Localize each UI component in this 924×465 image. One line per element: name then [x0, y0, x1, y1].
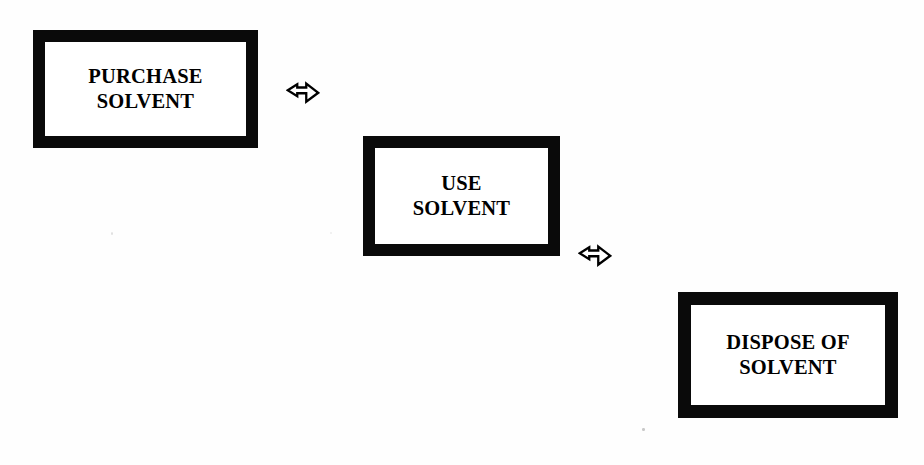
- scan-artifact-speck: [330, 232, 332, 234]
- process-box-purchase-solvent-label: PURCHASE SOLVENT: [84, 64, 206, 114]
- process-box-dispose-solvent-label: DISPOSE OF SOLVENT: [722, 330, 853, 380]
- block-arrow-right-icon: [286, 81, 320, 105]
- block-arrow-right-icon: [578, 244, 612, 268]
- scan-artifact-speck: [111, 232, 113, 235]
- process-box-use-solvent-label: USE SOLVENT: [409, 171, 515, 221]
- process-box-purchase-solvent[interactable]: PURCHASE SOLVENT: [33, 30, 258, 148]
- scan-artifact-speck: [642, 428, 645, 431]
- process-box-use-solvent[interactable]: USE SOLVENT: [363, 136, 560, 256]
- process-box-dispose-solvent[interactable]: DISPOSE OF SOLVENT: [678, 292, 898, 418]
- diagram-canvas: PURCHASE SOLVENT USE SOLVENT DISPOSE OF …: [0, 0, 924, 465]
